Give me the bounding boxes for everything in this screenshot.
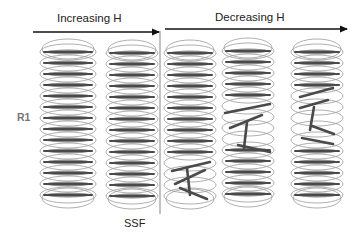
column-3 (164, 40, 216, 209)
column-5 (291, 39, 343, 208)
helix-bottom-cap (224, 187, 272, 207)
hysteresis-diagram: Increasing H Decreasing H R1 SSF (0, 0, 361, 240)
helix-top-cap (108, 40, 156, 60)
helix-top-cap (224, 38, 272, 58)
distorted-molecule-bar (180, 188, 207, 199)
column-2-ssf (106, 40, 158, 209)
helix-top-cap (42, 39, 94, 59)
r1-label: R1 (17, 112, 30, 123)
distorted-molecule-bar (225, 104, 270, 113)
helix-bottom-cap (293, 188, 341, 208)
ssf-label: SSF (124, 218, 145, 229)
helix-top-cap (166, 40, 214, 60)
distorted-molecule-bar (312, 126, 334, 134)
distorted-molecule-bar (244, 122, 247, 148)
column-1 (40, 39, 96, 208)
helix-bottom-cap (42, 188, 94, 208)
decreasing-h-label: Decreasing H (215, 12, 285, 24)
increasing-h-label: Increasing H (57, 13, 122, 25)
column-4 (222, 38, 274, 207)
helix-bottom-cap (108, 189, 156, 209)
helix-columns-figure (0, 0, 361, 240)
helix-top-cap (293, 39, 341, 59)
